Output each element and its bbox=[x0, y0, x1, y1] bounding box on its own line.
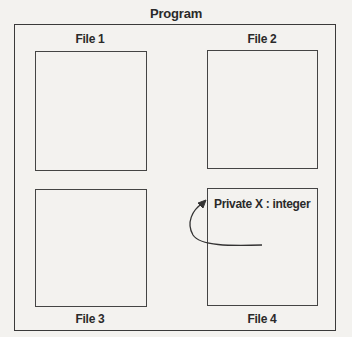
scope-arrow-icon bbox=[0, 0, 352, 337]
